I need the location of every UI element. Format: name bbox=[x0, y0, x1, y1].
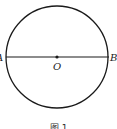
figure-caption: 图 1 bbox=[50, 123, 68, 129]
label-o: O bbox=[53, 61, 61, 72]
center-point-o bbox=[55, 55, 58, 58]
label-b: B bbox=[109, 52, 117, 63]
label-a: A bbox=[0, 52, 3, 63]
circle-diagram: A O B 图 1 bbox=[0, 0, 117, 129]
